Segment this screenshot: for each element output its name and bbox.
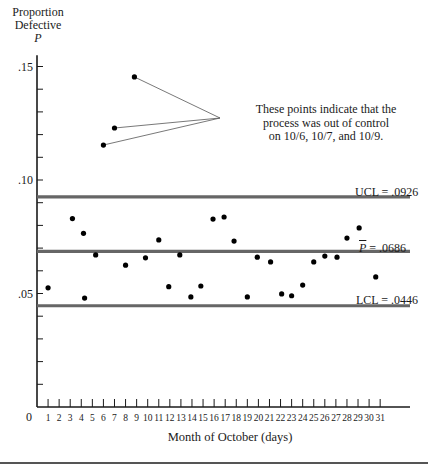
- x-tick-label: 18: [232, 413, 242, 423]
- ucl-label: UCL = .0926: [355, 185, 418, 200]
- x-tick-label: 17: [220, 413, 230, 423]
- x-tick-label: 28: [342, 413, 352, 423]
- x-tick-label: 16: [209, 413, 219, 423]
- pbar-label: P = .0686: [359, 241, 406, 256]
- data-point: [198, 283, 203, 288]
- x-tick-label: 11: [154, 413, 163, 423]
- y-axis-label: Proportion Defective P: [0, 6, 76, 45]
- data-point: [268, 259, 273, 264]
- data-point: [357, 225, 362, 230]
- data-point: [156, 237, 161, 242]
- x-tick-label: 4: [79, 413, 84, 423]
- x-tick-label: 29: [353, 413, 363, 423]
- data-point: [93, 252, 98, 257]
- footer-divider: [0, 462, 428, 464]
- data-point: [334, 255, 339, 260]
- x-tick-label: 9: [134, 413, 139, 423]
- data-point: [210, 216, 215, 221]
- lcl-label: LCL = .0446: [356, 293, 418, 308]
- data-point: [132, 74, 137, 79]
- y-axis-symbol: P: [0, 32, 76, 45]
- x-tick-label: 24: [298, 413, 308, 423]
- data-point: [279, 291, 284, 296]
- x-tick-label: 23: [287, 413, 297, 423]
- x-tick-label: 5: [90, 413, 95, 423]
- data-point: [45, 285, 50, 290]
- x-tick-label: 10: [143, 413, 153, 423]
- data-point: [166, 284, 171, 289]
- x-origin-label: 0: [26, 410, 32, 424]
- out-of-control-annotation: These points indicate that the process w…: [226, 103, 426, 144]
- x-tick-label: 22: [276, 413, 286, 423]
- annotation-leader-line: [103, 118, 220, 145]
- data-point: [70, 216, 75, 221]
- x-tick-label: 13: [176, 413, 186, 423]
- data-point: [101, 142, 106, 147]
- data-point: [289, 293, 294, 298]
- y-tick-label: .15: [18, 60, 33, 74]
- x-tick-label: 25: [309, 413, 319, 423]
- x-tick-label: 21: [265, 413, 275, 423]
- data-point: [245, 294, 250, 299]
- data-point: [123, 263, 128, 268]
- x-tick-label: 6: [101, 413, 106, 423]
- data-point: [188, 294, 193, 299]
- control-chart: .15.10.051234567891011121314151617181920…: [0, 0, 433, 474]
- annotation-leader-line: [134, 77, 220, 118]
- data-point: [143, 255, 148, 260]
- x-tick-label: 12: [165, 413, 175, 423]
- data-point: [221, 214, 226, 219]
- y-tick-label: .10: [18, 173, 33, 187]
- x-tick-label: 8: [123, 413, 128, 423]
- x-tick-label: 15: [198, 413, 208, 423]
- data-point: [255, 255, 260, 260]
- pbar-value: = .0686: [366, 241, 406, 255]
- x-tick-label: 14: [187, 413, 197, 423]
- x-tick-label: 3: [68, 413, 73, 423]
- x-tick-label: 30: [364, 413, 374, 423]
- data-point: [177, 252, 182, 257]
- x-tick-label: 31: [375, 413, 385, 423]
- data-point: [81, 231, 86, 236]
- x-tick-label: 19: [243, 413, 253, 423]
- annotation-line3: on 10/6, 10/7, and 10/9.: [226, 130, 426, 144]
- x-tick-label: 27: [331, 413, 341, 423]
- data-point: [300, 283, 305, 288]
- data-point: [344, 236, 349, 241]
- annotation-line2: process was out of control: [226, 117, 426, 131]
- data-point: [112, 125, 117, 130]
- x-axis-label: Month of October (days): [120, 430, 340, 445]
- x-tick-label: 7: [112, 413, 117, 423]
- data-point: [373, 274, 378, 279]
- annotation-line1: These points indicate that the: [226, 103, 426, 117]
- x-tick-label: 26: [320, 413, 330, 423]
- x-tick-label: 2: [57, 413, 62, 423]
- x-tick-label: 20: [254, 413, 264, 423]
- data-point: [82, 295, 87, 300]
- y-tick-label: .05: [18, 287, 33, 301]
- data-point: [311, 259, 316, 264]
- data-point: [322, 253, 327, 258]
- annotation-leader-line: [114, 118, 220, 128]
- data-point: [231, 238, 236, 243]
- x-tick-label: 1: [46, 413, 51, 423]
